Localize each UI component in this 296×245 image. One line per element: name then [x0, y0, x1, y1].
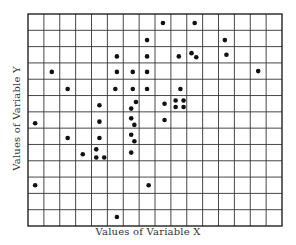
data-point	[80, 152, 85, 157]
data-point	[97, 136, 102, 141]
grid	[28, 14, 282, 226]
data-point	[178, 87, 183, 92]
data-point	[50, 70, 55, 75]
data-point	[223, 38, 228, 43]
data-point	[192, 21, 197, 26]
data-point	[115, 54, 120, 59]
data-points	[33, 21, 261, 220]
data-point	[132, 123, 137, 128]
data-point	[33, 121, 38, 126]
x-axis-label: Values of Variable X	[0, 226, 296, 237]
data-point	[115, 215, 120, 220]
data-point	[65, 87, 70, 92]
data-point	[115, 70, 120, 75]
data-point	[161, 21, 166, 26]
y-axis-label: Values of Variable Y	[11, 59, 22, 179]
data-point	[129, 116, 134, 121]
data-point	[177, 54, 182, 59]
data-point	[113, 87, 118, 92]
data-point	[130, 87, 135, 92]
data-point	[94, 155, 99, 160]
data-point	[65, 136, 70, 141]
data-point	[129, 132, 134, 137]
data-point	[146, 183, 151, 188]
data-point	[173, 98, 178, 103]
data-point	[129, 150, 134, 155]
data-point	[162, 118, 167, 123]
data-point	[145, 38, 150, 43]
data-point	[145, 87, 150, 92]
data-point	[97, 119, 102, 124]
data-point	[145, 54, 150, 59]
data-point	[94, 147, 99, 152]
data-point	[145, 70, 150, 75]
data-point	[162, 101, 167, 106]
data-point	[33, 183, 38, 188]
data-point	[130, 70, 135, 75]
data-point	[256, 69, 261, 74]
data-point	[173, 105, 178, 110]
scatter-chart	[0, 0, 296, 245]
data-point	[181, 105, 186, 110]
data-point	[132, 139, 137, 144]
data-point	[102, 155, 107, 160]
data-point	[224, 52, 229, 57]
data-point	[97, 103, 102, 108]
data-point	[189, 51, 194, 56]
data-point	[134, 100, 139, 105]
data-point	[194, 55, 199, 60]
data-point	[129, 106, 134, 111]
data-point	[181, 98, 186, 103]
